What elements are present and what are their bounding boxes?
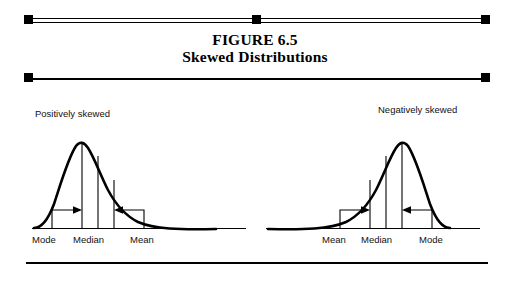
tick-label-mode-negative: Mode [419, 234, 443, 245]
top-rule-square-left [24, 15, 33, 24]
arrowhead-mode-negative [402, 206, 411, 214]
mid-rule-line [30, 78, 484, 80]
figure-subtitle: Skewed Distributions [0, 48, 510, 65]
mid-rule [0, 72, 510, 86]
tick-label-mean-negative: Mean [322, 234, 346, 245]
top-rule-square-right [481, 15, 490, 24]
tick-label-mean-positive: Mean [130, 234, 154, 245]
top-rule-square-center [252, 15, 261, 24]
arrowhead-mode-positive [73, 206, 82, 214]
chart-negatively-skewed: Negatively skewed Mean Median Mode [254, 100, 496, 248]
bottom-rule-line [26, 262, 488, 264]
chart-positively-skewed: Positively skewed Mode Median Mean [20, 100, 256, 248]
chart-caption-positive: Positively skewed [35, 108, 110, 119]
density-curve-positive [34, 143, 216, 230]
density-curve-negative [268, 143, 450, 230]
tick-label-median-positive: Median [73, 234, 104, 245]
chart-caption-negative: Negatively skewed [378, 104, 457, 115]
figure-number: FIGURE 6.5 [0, 31, 510, 48]
tick-label-median-negative: Median [361, 234, 392, 245]
mid-rule-square-left [24, 73, 33, 82]
positively-skewed-plot: Positively skewed Mode Median Mean [20, 100, 256, 248]
bottom-rule [0, 258, 510, 268]
figure-container: FIGURE 6.5 Skewed Distributions Positive… [0, 0, 510, 283]
leader-mode-positive [52, 210, 76, 228]
mid-rule-square-right [481, 73, 490, 82]
figure-title: FIGURE 6.5 Skewed Distributions [0, 31, 510, 65]
tick-label-mode-positive: Mode [32, 234, 56, 245]
leader-mode-negative [408, 210, 432, 228]
negatively-skewed-plot: Negatively skewed Mean Median Mode [254, 100, 496, 248]
top-rule [0, 14, 510, 28]
